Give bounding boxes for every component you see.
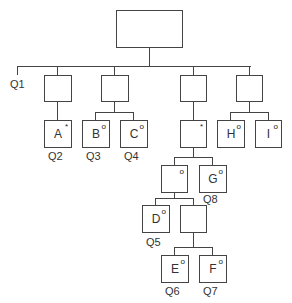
connector	[193, 198, 194, 205]
question-label-q4: Q4	[124, 150, 139, 162]
node-f: Fo	[199, 255, 227, 283]
connector	[155, 198, 156, 205]
connector	[174, 157, 175, 165]
level1-box-a	[44, 75, 72, 102]
connector	[268, 112, 269, 120]
connector	[193, 101, 194, 120]
connector	[17, 66, 18, 75]
connector	[174, 247, 175, 255]
selection-circle-icon: o	[140, 123, 144, 131]
root-box	[116, 10, 183, 48]
selection-circle-icon: o	[102, 123, 106, 131]
selection-circle-icon: o	[237, 123, 241, 131]
question-label-q6: Q6	[165, 285, 180, 297]
selection-circle-icon: o	[162, 208, 166, 216]
connector	[17, 66, 251, 67]
node-selection-1: o	[161, 165, 188, 193]
connector	[57, 101, 58, 120]
node-a: A*	[44, 120, 72, 148]
node-iteration: *	[180, 120, 207, 148]
node-e: Eo	[161, 255, 189, 283]
connector	[95, 112, 96, 120]
connector	[174, 247, 213, 248]
connector	[114, 66, 115, 75]
connector	[249, 66, 250, 75]
connector	[212, 157, 213, 165]
connector	[212, 247, 213, 255]
connector	[249, 101, 250, 112]
question-label-q1: Q1	[10, 78, 25, 90]
connector	[114, 101, 115, 112]
level1-box-d	[236, 75, 263, 102]
connector	[174, 157, 213, 158]
connector	[230, 112, 269, 113]
selection-circle-icon: o	[181, 258, 185, 266]
connector	[193, 66, 194, 75]
node-d: Do	[142, 205, 170, 233]
selection-circle-icon: o	[180, 168, 184, 176]
level1-box-c	[180, 75, 207, 102]
level1-box-b	[101, 75, 129, 102]
question-label-q2: Q2	[48, 150, 63, 162]
selection-circle-icon: o	[219, 168, 223, 176]
connector	[230, 112, 231, 120]
node-sequence-2	[180, 205, 207, 233]
connector	[193, 232, 194, 247]
selection-circle-icon: o	[274, 123, 278, 131]
node-b: Bo	[82, 120, 110, 148]
node-i: Io	[255, 120, 282, 148]
connector	[155, 198, 194, 199]
connector	[193, 147, 194, 157]
question-label-q8: Q8	[203, 193, 218, 205]
node-g: Go	[199, 165, 227, 193]
iteration-star-icon: *	[200, 123, 203, 131]
question-label-q3: Q3	[86, 150, 101, 162]
question-label-q7: Q7	[203, 285, 218, 297]
connector	[149, 47, 150, 66]
question-label-q5: Q5	[146, 236, 161, 248]
connector	[57, 66, 58, 75]
connector	[95, 112, 134, 113]
node-c: Co	[120, 120, 148, 148]
iteration-star-icon: *	[65, 123, 68, 131]
connector	[133, 112, 134, 120]
node-h: Ho	[217, 120, 245, 148]
selection-circle-icon: o	[219, 258, 223, 266]
